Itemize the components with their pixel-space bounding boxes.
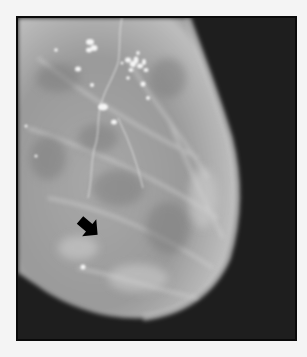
cropped-caption-text bbox=[0, 0, 307, 5]
mammogram-image bbox=[18, 18, 295, 339]
breast-tissue bbox=[18, 18, 237, 318]
mammogram-image-frame bbox=[16, 16, 297, 341]
